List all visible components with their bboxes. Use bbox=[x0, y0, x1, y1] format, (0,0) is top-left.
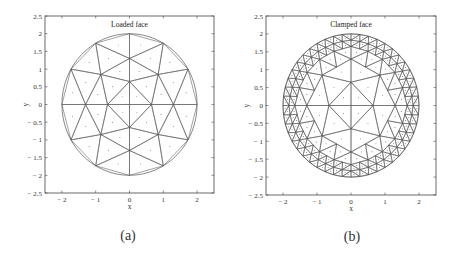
y-tick-label: − 2 bbox=[254, 174, 264, 182]
x-axis-label: x bbox=[349, 204, 353, 213]
y-tick-label: − 2.5 bbox=[249, 192, 264, 200]
x-tick-label: 1 bbox=[162, 196, 166, 204]
y-tick-label: 2.5 bbox=[33, 13, 42, 21]
x-tick-label: 1 bbox=[383, 198, 387, 206]
y-tick-label: 1.5 bbox=[33, 48, 42, 56]
y-axis-label: y bbox=[21, 102, 30, 106]
figure: − 2− 10122.521.510.50− 0.5− 1− 1.5− 2− 2… bbox=[0, 0, 458, 261]
y-tick-label: 1.5 bbox=[254, 48, 263, 56]
y-tick-label: 2 bbox=[39, 30, 43, 38]
y-tick-label: − 1.5 bbox=[249, 156, 264, 164]
y-tick-label: − 0.5 bbox=[249, 120, 264, 128]
x-tick-label: − 1 bbox=[312, 198, 322, 206]
panel-b: − 2− 10122.521.510.50− 0.5− 1− 1.5− 2− 2… bbox=[242, 13, 436, 214]
caption-a: (a) bbox=[120, 228, 136, 244]
y-tick-label: 0 bbox=[260, 102, 264, 110]
caption-b: (b) bbox=[344, 229, 360, 245]
panel-title: Loaded face bbox=[111, 20, 149, 29]
y-tick-label: − 1.5 bbox=[28, 154, 43, 162]
y-tick-label: 1 bbox=[260, 66, 264, 74]
y-tick-label: − 0.5 bbox=[28, 119, 43, 127]
x-tick-label: 2 bbox=[417, 198, 421, 206]
y-tick-label: − 2 bbox=[33, 172, 43, 180]
panel-title: Clamped face bbox=[330, 20, 372, 29]
x-tick-label: − 2 bbox=[57, 196, 67, 204]
x-tick-label: 2 bbox=[195, 196, 199, 204]
panel-a: − 2− 10122.521.510.50− 0.5− 1− 1.5− 2− 2… bbox=[21, 13, 214, 212]
y-axis-label: y bbox=[242, 103, 251, 107]
y-tick-label: 2 bbox=[260, 30, 264, 38]
y-tick-label: − 1 bbox=[254, 138, 264, 146]
y-tick-label: − 1 bbox=[33, 136, 43, 144]
y-tick-label: 0 bbox=[39, 101, 43, 109]
mesh bbox=[283, 34, 419, 177]
y-tick-label: 2.5 bbox=[254, 13, 263, 21]
x-tick-label: − 2 bbox=[278, 198, 288, 206]
mesh bbox=[62, 34, 197, 176]
x-tick-label: − 1 bbox=[91, 196, 101, 204]
x-axis-label: x bbox=[128, 202, 132, 211]
y-tick-label: − 2.5 bbox=[28, 190, 43, 198]
y-tick-label: 0.5 bbox=[33, 83, 42, 91]
y-tick-label: 0.5 bbox=[254, 84, 263, 92]
y-tick-label: 1 bbox=[39, 66, 43, 74]
